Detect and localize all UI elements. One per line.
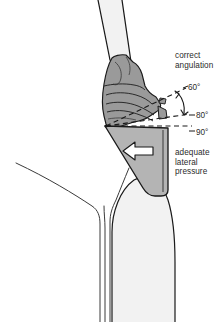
label-correct-angulation-line1: correct <box>175 51 213 61</box>
angle-label-90-degrees: 90° <box>196 128 208 137</box>
label-adequate-lateral-pressure: adequate lateral pressure <box>175 148 210 177</box>
tooth-crown-lower <box>112 177 175 322</box>
label-correct-angulation: correct angulation <box>175 51 213 70</box>
calculus-deposit <box>103 55 168 128</box>
label-lateral-pressure-line1: adequate <box>175 148 210 158</box>
angle-label-80-degrees: 80° <box>196 111 208 120</box>
label-lateral-pressure-line3: pressure <box>175 167 210 177</box>
label-lateral-pressure-line2: lateral <box>175 158 210 168</box>
angulation-diagram: correct angulation adequate lateral pres… <box>0 0 224 322</box>
angle-label-60-degrees: 60° <box>188 83 200 92</box>
label-correct-angulation-line2: angulation <box>175 61 213 71</box>
